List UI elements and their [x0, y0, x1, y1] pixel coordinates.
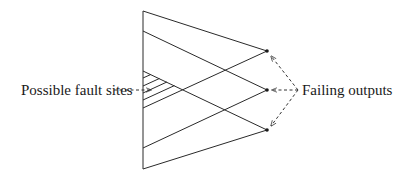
- failing-output-arrows: [271, 56, 298, 126]
- output-node-bottom: [265, 128, 269, 132]
- cone-line: [143, 90, 267, 148]
- output-nodes: [265, 49, 269, 132]
- cone-line: [143, 130, 267, 169]
- failing-outputs-label: Failing outputs: [302, 83, 392, 98]
- arrow-to-top-output: [271, 56, 298, 90]
- cone-line: [143, 31, 267, 90]
- hatch-line: [143, 82, 167, 93]
- hatch-line: [143, 86, 174, 100]
- cone-lines: [143, 11, 267, 169]
- output-node-top: [265, 49, 269, 53]
- arrow-to-bottom-output: [271, 90, 298, 126]
- cone-line: [143, 11, 267, 51]
- possible-fault-sites-label: Possible fault sites: [21, 83, 133, 98]
- hatch-line: [143, 75, 151, 78]
- hatch-line: [143, 79, 159, 87]
- output-node-mid: [265, 88, 269, 92]
